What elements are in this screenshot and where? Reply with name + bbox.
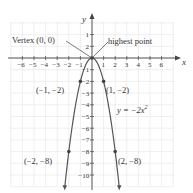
y-tick-label: −4	[82, 101, 90, 109]
y-tick-label: −6	[82, 125, 90, 133]
highest-point-label: highest point	[108, 36, 153, 46]
vertex-label: Vertex (0, 0)	[12, 35, 55, 45]
y-tick-label: −5	[82, 113, 90, 121]
data-point	[113, 150, 117, 154]
parabola-graph: −6−5−4−3−2−112345612−1−2−3−4−5−6−7−8−9−1…	[0, 0, 193, 193]
point-label-neg2: (−2, −8)	[24, 156, 52, 166]
point-label-2: (2, −8)	[118, 156, 141, 166]
y-tick-label: −7	[82, 136, 90, 144]
y-tick-label: −10	[78, 172, 89, 180]
x-tick-label: 1	[102, 61, 106, 69]
equation-main: y = −2x	[116, 105, 145, 115]
x-tick-label: 3	[125, 61, 129, 69]
data-point	[79, 80, 83, 84]
point-label-1: (1, −2)	[106, 85, 129, 95]
y-tick-label: −3	[82, 90, 90, 98]
x-axis-arrow-icon	[175, 56, 181, 61]
y-tick-label: 1	[85, 31, 89, 39]
highest-leader	[92, 42, 108, 58]
curve-arrow-icon	[63, 185, 67, 190]
x-tick-label: 2	[113, 61, 117, 69]
equation-exponent: 2	[145, 104, 148, 110]
x-tick-label: −6	[17, 61, 25, 69]
point-label-neg1: (−1, −2)	[36, 85, 64, 95]
x-tick-label: 4	[136, 61, 140, 69]
x-tick-label: −5	[29, 61, 37, 69]
y-tick-label: −9	[82, 160, 90, 168]
y-tick-label: −2	[82, 78, 90, 86]
y-axis-arrow-icon	[90, 13, 95, 19]
data-point	[67, 150, 71, 154]
x-tick-label: 6	[160, 61, 164, 69]
data-point	[102, 80, 106, 84]
y-tick-label: 2	[85, 43, 89, 51]
equation-label: y = −2x2	[116, 104, 148, 115]
curve-arrow-icon	[117, 185, 121, 190]
y-axis-label: y	[81, 14, 86, 24]
x-tick-label: 5	[148, 61, 152, 69]
x-tick-label: −4	[41, 61, 49, 69]
x-tick-label: −2	[64, 61, 72, 69]
x-tick-label: −3	[52, 61, 60, 69]
x-axis-label: x	[181, 57, 186, 67]
y-tick-label: −8	[82, 148, 90, 156]
